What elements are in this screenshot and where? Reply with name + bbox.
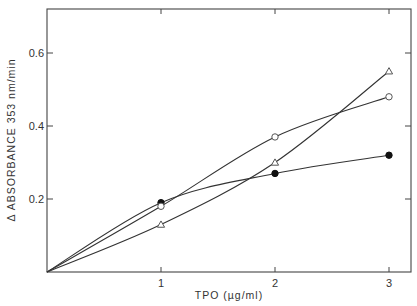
y-tick-label: 0.2 xyxy=(29,193,44,205)
axis-ticks: 1230.20.40.6 xyxy=(29,9,411,289)
open-triangle-marker xyxy=(271,159,278,165)
plot-frame xyxy=(47,9,411,272)
x-tick-label: 2 xyxy=(272,277,278,289)
series-line xyxy=(47,71,389,272)
y-tick-label: 0.4 xyxy=(29,120,44,132)
series-filled-circle xyxy=(47,152,392,272)
open-triangle-marker xyxy=(385,68,392,74)
series-open-circle xyxy=(47,94,392,272)
plot-border xyxy=(47,9,411,272)
x-axis-label: TPO (µg/ml) xyxy=(195,289,263,301)
open-circle-marker xyxy=(272,134,278,140)
x-tick-label: 1 xyxy=(158,277,164,289)
open-circle-marker xyxy=(386,94,392,100)
data-series xyxy=(47,68,393,272)
series-line xyxy=(47,155,389,272)
chart: 1230.20.40.6 TPO (µg/ml) Δ ABSORBANCE 35… xyxy=(0,0,417,306)
y-tick-label: 0.6 xyxy=(29,47,44,59)
open-circle-marker xyxy=(158,203,164,209)
series-open-triangle xyxy=(47,68,393,272)
x-tick-label: 3 xyxy=(386,277,392,289)
y-axis-label: Δ ABSORBANCE 353 nm/min xyxy=(5,58,17,221)
open-triangle-marker xyxy=(157,221,164,227)
filled-circle-marker xyxy=(386,152,392,158)
filled-circle-marker xyxy=(272,170,278,176)
